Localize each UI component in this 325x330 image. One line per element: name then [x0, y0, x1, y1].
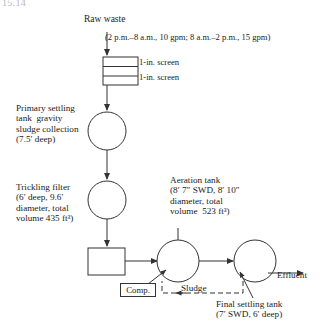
comp-unit-box: [88, 248, 125, 275]
raw-waste-label: Raw waste: [84, 14, 125, 25]
figure-canvas: 15.14 Raw waste (2 p.m.–8 a.m., 10 gpm; …: [0, 0, 325, 330]
comp-label: Comp.: [120, 283, 156, 297]
flow-diagram-svg: [0, 0, 325, 330]
primary-settling-tank-label: Primary settling tank gravity sludge col…: [16, 103, 79, 144]
aeration-tank-shape: [157, 240, 199, 282]
primary-settling-tank-shape: [88, 112, 126, 150]
trickling-filter-label: Trickling filter (6′ deep, 9.6′ diameter…: [16, 182, 73, 223]
trickling-filter-shape: [88, 181, 126, 219]
aeration-tank-label: Aeration tank (8′ 7″ SWD, 8′ 10″ diamete…: [170, 175, 240, 216]
final-settling-tank-shape: [234, 240, 276, 282]
flow-rate-note: (2 p.m.–8 a.m., 10 gpm; 8 a.m.–2 p.m., 1…: [105, 33, 270, 43]
flow-sludge-return-dashed-left: [162, 281, 176, 293]
fine-screen-label: 1-in. screen: [139, 73, 179, 83]
final-settling-tank-label: Final settling tank (7′ SWD, 6′ deep): [216, 299, 282, 320]
bar-screen-box: [103, 57, 138, 85]
effluent-label: Effluent: [277, 270, 307, 280]
connector-comp-label-to-aeration: [148, 270, 166, 284]
figure-number: 15.14: [2, 0, 26, 8]
sludge-return-label: Sludge: [181, 283, 207, 293]
coarse-screen-label: 1-in. screen: [139, 58, 179, 68]
